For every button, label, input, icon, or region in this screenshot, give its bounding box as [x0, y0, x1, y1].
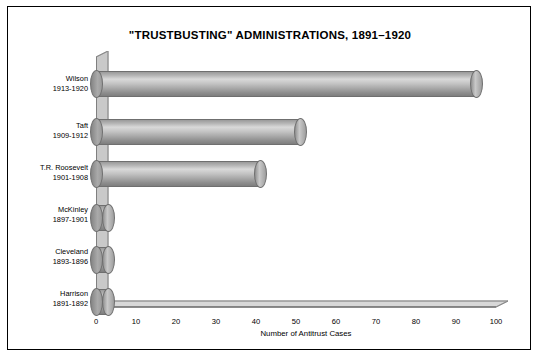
category-name: Cleveland: [53, 247, 88, 257]
x-tick-100: 100: [490, 317, 503, 326]
x-tick-70: 70: [372, 317, 380, 326]
category-name: T.R. Roosevelt: [40, 163, 88, 173]
bar-body: [96, 71, 476, 97]
category-years: 1891-1892: [53, 299, 88, 309]
chart-page: "TRUSTBUSTING" ADMINISTRATIONS, 1891–192…: [0, 0, 539, 358]
bar-cap-right: [254, 160, 267, 188]
category-name: Wilson: [53, 74, 88, 84]
category-label-wilson: Wilson 1913-1920: [53, 74, 88, 93]
bar-cap-right: [470, 70, 483, 98]
category-name: McKinley: [53, 205, 88, 215]
category-years: 1909-1912: [53, 131, 88, 141]
x-tick-50: 50: [292, 317, 300, 326]
chart-frame: "TRUSTBUSTING" ADMINISTRATIONS, 1891–192…: [7, 6, 531, 350]
category-name: Taft: [53, 121, 88, 131]
category-label-tr-roosevelt: T.R. Roosevelt 1901-1908: [40, 163, 88, 182]
category-years: 1897-1901: [53, 215, 88, 225]
bar-cap-left: [90, 118, 103, 146]
bar-cleveland[interactable]: [96, 247, 108, 273]
x-tick-90: 90: [452, 317, 460, 326]
chart-title: "TRUSTBUSTING" ADMINISTRATIONS, 1891–192…: [8, 29, 532, 41]
bars-layer: [96, 57, 526, 317]
x-tick-10: 10: [132, 317, 140, 326]
category-name: Harrison: [53, 289, 88, 299]
category-years: 1901-1908: [40, 173, 88, 183]
bar-body: [96, 119, 300, 145]
x-tick-20: 20: [172, 317, 180, 326]
bar-cap-right: [294, 118, 307, 146]
bar-cap-right: [102, 246, 115, 274]
x-axis-title: Number of Antitrust Cases: [96, 329, 516, 338]
bar-cap-left: [90, 160, 103, 188]
x-tick-80: 80: [412, 317, 420, 326]
category-labels: Wilson 1913-1920 Taft 1909-1912 T.R. Roo…: [8, 57, 88, 317]
x-tick-60: 60: [332, 317, 340, 326]
x-tick-40: 40: [252, 317, 260, 326]
category-label-cleveland: Cleveland 1893-1896: [53, 247, 88, 266]
category-label-mckinley: McKinley 1897-1901: [53, 205, 88, 224]
category-years: 1913-1920: [53, 84, 88, 94]
category-label-harrison: Harrison 1891-1892: [53, 289, 88, 308]
bar-cap-left: [90, 70, 103, 98]
bar-body: [96, 161, 260, 187]
x-axis: 0 10 20 30 40 50 60 70 80 90 100 Number …: [96, 307, 526, 347]
bar-mckinley[interactable]: [96, 205, 108, 231]
bar-wilson[interactable]: [96, 71, 476, 97]
category-label-taft: Taft 1909-1912: [53, 121, 88, 140]
bar-tr-roosevelt[interactable]: [96, 161, 260, 187]
bar-cap-right: [102, 204, 115, 232]
category-years: 1893-1896: [53, 257, 88, 267]
x-tick-0: 0: [94, 317, 98, 326]
x-tick-30: 30: [212, 317, 220, 326]
bar-taft[interactable]: [96, 119, 300, 145]
